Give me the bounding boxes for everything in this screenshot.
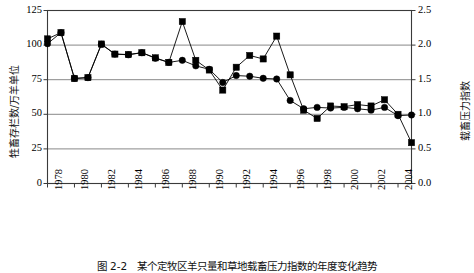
data-marker-2	[125, 52, 131, 58]
data-marker-2	[273, 76, 279, 82]
data-marker-2	[300, 106, 306, 112]
data-marker-2	[139, 50, 145, 56]
x-tick-label: 1980	[79, 169, 90, 190]
y-tick-label-left: 75	[16, 73, 42, 84]
data-marker-2	[260, 75, 266, 81]
y-tick-label-right: 1.5	[418, 73, 446, 84]
data-marker-2	[233, 72, 239, 78]
data-marker-1	[220, 87, 226, 93]
data-marker-2	[220, 79, 226, 85]
data-marker-2	[85, 74, 91, 80]
data-marker-2	[341, 104, 347, 110]
y-tick-label-left: 0	[16, 177, 42, 188]
data-marker-1	[287, 72, 293, 78]
y-tick-label-left: 100	[16, 38, 42, 49]
y-axis-right-title: 载畜压力指数	[457, 51, 472, 171]
series-line-1	[48, 22, 412, 143]
data-marker-2	[381, 104, 387, 110]
data-marker-2	[206, 66, 212, 72]
x-tick-label: 2002	[376, 169, 387, 190]
x-tick-label: 1996	[295, 169, 306, 190]
data-marker-2	[314, 104, 320, 110]
data-marker-2	[58, 29, 64, 35]
x-tick-label: 1978	[53, 169, 64, 190]
y-tick-label-right: 0.0	[418, 177, 446, 188]
data-marker-2	[98, 41, 104, 47]
data-marker-2	[152, 55, 158, 61]
data-marker-2	[193, 63, 199, 69]
y-tick-label-left: 25	[16, 142, 42, 153]
x-tick-label: 1992	[241, 169, 252, 190]
y-tick-label-left: 50	[16, 107, 42, 118]
data-marker-2	[287, 97, 293, 103]
data-marker-1	[179, 18, 185, 24]
data-marker-1	[408, 140, 414, 146]
data-marker-2	[408, 112, 414, 118]
x-tick-label: 1986	[160, 169, 171, 190]
data-marker-2	[44, 41, 50, 47]
plot-frame	[48, 11, 412, 184]
data-marker-2	[112, 51, 118, 57]
data-marker-2	[247, 73, 253, 79]
data-marker-2	[179, 57, 185, 63]
data-marker-1	[247, 52, 253, 58]
y-tick-label-right: 2.0	[418, 38, 446, 49]
data-marker-1	[314, 115, 320, 121]
x-tick-label: 1990	[214, 169, 225, 190]
data-marker-2	[395, 112, 401, 118]
x-tick-label: 1982	[106, 169, 117, 190]
y-tick-label-right: 1.0	[418, 107, 446, 118]
data-marker-1	[233, 64, 239, 70]
data-marker-1	[260, 56, 266, 62]
data-marker-1	[274, 33, 280, 39]
y-tick-label-right: 2.5	[418, 4, 446, 15]
data-marker-2	[354, 106, 360, 112]
x-tick-label: 1984	[133, 169, 144, 190]
y-tick-label-right: 0.5	[418, 142, 446, 153]
x-tick-label: 2004	[403, 169, 414, 190]
data-marker-1	[381, 97, 387, 103]
data-marker-2	[368, 107, 374, 113]
x-tick-label: 1998	[322, 169, 333, 190]
data-marker-2	[327, 105, 333, 111]
y-tick-label-left: 125	[16, 4, 42, 15]
x-tick-label: 1988	[187, 169, 198, 190]
data-marker-2	[166, 59, 172, 65]
data-marker-2	[71, 75, 77, 81]
x-tick-label: 2000	[349, 169, 360, 190]
x-tick-label: 1994	[268, 169, 279, 190]
figure-caption: 图 2-2 某个定牧区羊只量和草地载畜压力指数的年度变化趋势	[0, 258, 474, 273]
